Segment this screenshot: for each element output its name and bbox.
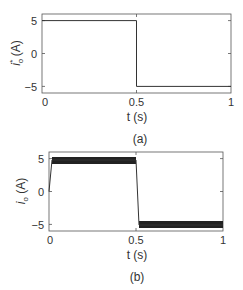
series-line-b <box>49 160 223 225</box>
xtick-0.5: 0.5 <box>129 96 144 108</box>
xtick-1: 1 <box>228 96 234 108</box>
panel-label-b: (b) <box>130 270 145 284</box>
ytick-neg5: −5 <box>31 219 44 231</box>
ytick-0: 0 <box>38 186 44 198</box>
xlabel-b: t (s) <box>127 248 148 262</box>
ytick-neg5: −5 <box>24 81 37 93</box>
xtick-0: 0 <box>47 234 53 246</box>
xtick-0: 0 <box>42 96 48 108</box>
ytick-0: 0 <box>31 48 37 60</box>
ytick-5: 5 <box>31 15 37 27</box>
chart-b: 5 0 −5 0 0.5 1 t (s) io (A) (b) <box>14 152 226 284</box>
chart-a: 5 0 −5 0 0.5 1 t (s) io* (A) (a) <box>8 14 234 146</box>
svg-text:io* (A): io* (A) <box>8 40 25 66</box>
ylabel-a: io* (A) <box>8 40 25 66</box>
ytick-5: 5 <box>38 153 44 165</box>
figure: 5 0 −5 0 0.5 1 t (s) io* (A) (a) 5 0 −5 … <box>0 0 243 290</box>
svg-text:io (A): io (A) <box>14 178 30 204</box>
xlabel-a: t (s) <box>127 110 148 124</box>
ylabel-b: io (A) <box>14 178 30 204</box>
panel-label-a: (a) <box>133 132 148 146</box>
xtick-1: 1 <box>220 234 226 246</box>
series-line-a <box>42 21 231 87</box>
xtick-0.5: 0.5 <box>128 234 143 246</box>
